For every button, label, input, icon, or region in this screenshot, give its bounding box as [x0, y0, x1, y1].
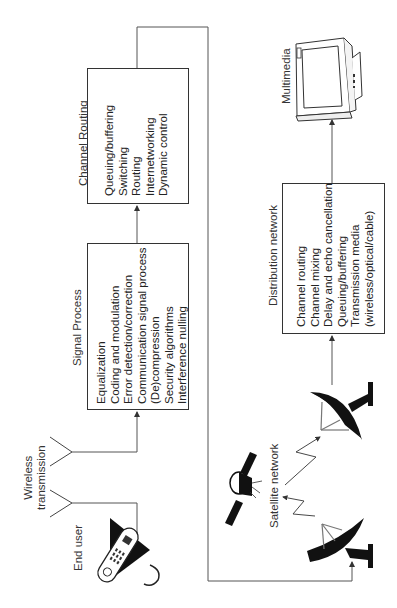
- list-item: Queuing/buffering: [103, 105, 117, 196]
- list-item: Transmission media: [349, 183, 363, 327]
- signal-process-title: Signal Process: [71, 289, 83, 366]
- distribution-network-items: Channel routing Channel mixing Delay and…: [295, 183, 376, 327]
- list-item: Queuing/buffering: [336, 183, 350, 327]
- label-line: Wireless: [22, 445, 35, 510]
- signal-up-icon: [283, 497, 315, 516]
- antenna-icon: [50, 437, 72, 517]
- wireless-transmission-label: Wireless transmission: [22, 445, 48, 510]
- list-item: Security algorithms: [163, 247, 177, 404]
- list-item: Equalization: [95, 247, 109, 404]
- distribution-network-title: Distribution network: [267, 205, 279, 306]
- list-item: Dynamic control: [157, 105, 171, 196]
- list-item: (wireless/optical/cable): [363, 183, 377, 327]
- list-item: Coding and modulation: [109, 247, 123, 404]
- list-item: (De)compression: [149, 247, 163, 404]
- signal-down-icon: [285, 437, 320, 485]
- list-item: Channel routing: [295, 183, 309, 327]
- telephone-icon: [94, 518, 159, 585]
- list-item: Switching: [117, 105, 131, 196]
- multimedia-label: Multimedia: [280, 48, 293, 104]
- list-item: Delay and echo cancellation: [322, 183, 336, 327]
- satellite-icon: [225, 452, 262, 526]
- distribution-network-box: Channel routing Channel mixing Delay and…: [282, 183, 385, 334]
- connector-antenna-signal: [72, 412, 137, 452]
- list-item: Routing: [130, 105, 144, 196]
- label-line: transmission: [35, 445, 48, 510]
- satellite-network-label: Satellite network: [268, 444, 281, 528]
- channel-routing-items: Queuing/buffering Switching Routing Inte…: [103, 105, 171, 196]
- list-item: Communication signal process: [136, 247, 150, 404]
- end-user-label: End user: [72, 525, 85, 571]
- satellite-dish-icon: [307, 518, 373, 568]
- channel-routing-box: Queuing/buffering Switching Routing Inte…: [87, 68, 189, 204]
- list-item: Error detection/correction: [122, 247, 136, 404]
- satellite-dish-icon: [310, 382, 373, 440]
- signal-process-box: Equalization Coding and modulation Error…: [87, 243, 189, 410]
- signal-process-items: Equalization Coding and modulation Error…: [95, 247, 190, 404]
- list-item: Channel mixing: [309, 183, 323, 327]
- list-item: Interference nulling: [176, 247, 190, 404]
- monitor-icon: [296, 38, 362, 121]
- list-item: Internetworking: [144, 105, 158, 196]
